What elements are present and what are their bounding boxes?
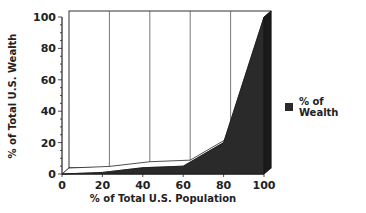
legend-swatch bbox=[285, 103, 293, 111]
x-tick-label: 0 bbox=[58, 179, 66, 192]
legend: % of Wealth bbox=[285, 96, 366, 118]
y-tick-label: 0 bbox=[48, 168, 56, 181]
x-tick-label: 20 bbox=[95, 179, 111, 192]
y-tick-label: 100 bbox=[33, 11, 56, 24]
y-tick-label: 80 bbox=[41, 42, 57, 55]
x-tick-label: 100 bbox=[253, 179, 276, 192]
y-tick-label: 20 bbox=[41, 137, 57, 150]
x-tick-label: 60 bbox=[176, 179, 192, 192]
y-axis-title: % of Total U.S. Wealth bbox=[7, 34, 18, 159]
y-tick-label: 60 bbox=[41, 74, 57, 87]
x-axis-title: % of Total U.S. Population bbox=[90, 193, 236, 204]
x-tick-label: 40 bbox=[135, 179, 151, 192]
y-tick-label: 40 bbox=[41, 105, 57, 118]
legend-label: % of Wealth bbox=[299, 96, 366, 118]
x-tick-label: 80 bbox=[216, 179, 232, 192]
